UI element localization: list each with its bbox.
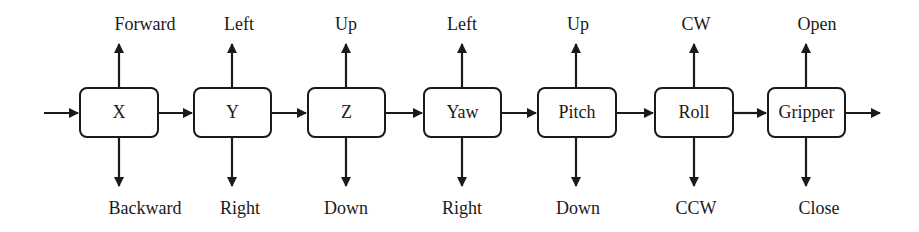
up-label-z: Up (286, 14, 406, 34)
up-label-yaw: Left (402, 14, 522, 34)
stage-box-roll: Roll (654, 87, 734, 138)
stage-box-yaw: Yaw (423, 87, 502, 138)
stage-label: Gripper (779, 102, 835, 123)
up-label-roll: CW (636, 14, 756, 34)
up-label-pitch: Up (518, 14, 638, 34)
stage-label: Roll (678, 102, 709, 123)
down-label-yaw: Right (402, 198, 522, 218)
down-label-y: Right (180, 198, 300, 218)
down-label-roll: CCW (636, 198, 756, 218)
joint-control-diagram: X Y Z Yaw Pitch Roll Gripper Forward Lef… (0, 0, 919, 232)
stage-box-gripper: Gripper (767, 87, 846, 138)
down-label-gripper: Close (759, 198, 879, 218)
stage-box-z: Z (307, 87, 386, 138)
down-label-z: Down (286, 198, 406, 218)
down-label-pitch: Down (518, 198, 638, 218)
stage-box-x: X (79, 87, 159, 138)
stage-label: X (113, 102, 126, 123)
stage-label: Y (226, 102, 239, 123)
up-label-gripper: Open (757, 14, 877, 34)
up-label-y: Left (179, 14, 299, 34)
stage-label: Z (341, 102, 352, 123)
stage-label: Pitch (558, 102, 595, 123)
stage-box-pitch: Pitch (537, 87, 617, 138)
stage-label: Yaw (446, 102, 478, 123)
stage-box-y: Y (193, 87, 272, 138)
